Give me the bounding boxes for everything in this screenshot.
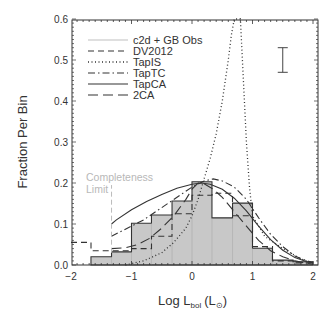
completeness-label: Completeness bbox=[86, 171, 153, 183]
completeness-limit-label: Limit bbox=[86, 183, 108, 195]
histogram-bars bbox=[91, 182, 313, 265]
x-tick-label: 1 bbox=[250, 271, 256, 282]
y-tick-label: 0.1 bbox=[54, 219, 68, 230]
legend-label: 2CA bbox=[133, 89, 155, 101]
x-axis-title: Log Lbol(L⊙) bbox=[158, 293, 227, 310]
x-tick-label: −1 bbox=[126, 271, 138, 282]
legend: c2d + GB ObsDV2012TapISTapTCTapCA2CA bbox=[88, 34, 203, 101]
y-tick-label: 0.2 bbox=[54, 178, 68, 189]
y-axis-title: Fraction Per Bin bbox=[15, 95, 30, 188]
y-tick-label: 0.3 bbox=[54, 137, 68, 148]
x-tick-label: 2 bbox=[310, 271, 316, 282]
y-tick-label: 0.0 bbox=[54, 260, 68, 271]
x-tick-label: 0 bbox=[189, 271, 195, 282]
y-tick-label: 0.6 bbox=[54, 14, 68, 25]
y-tick-label: 0.5 bbox=[54, 55, 68, 66]
chart: −2−10120.00.10.20.30.40.50.6 c2d + GB Ob… bbox=[0, 0, 336, 327]
histogram-c2d-gb-obs bbox=[91, 182, 313, 265]
y-tick-label: 0.4 bbox=[54, 96, 68, 107]
x-tick-label: −2 bbox=[65, 271, 77, 282]
